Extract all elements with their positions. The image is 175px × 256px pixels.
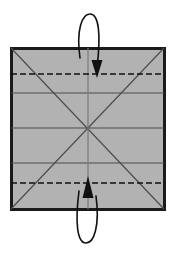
diagram-canvas: Paper folding step diagram Square sheet … bbox=[0, 0, 175, 256]
origami-fold-figure bbox=[0, 0, 175, 256]
